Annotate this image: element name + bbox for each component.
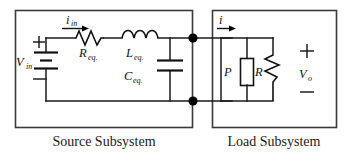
resistor-r-symbol bbox=[265, 55, 279, 101]
iin-label-sub: in bbox=[71, 19, 77, 28]
vo-plus-sign bbox=[300, 44, 314, 58]
vin-plus-sign bbox=[33, 36, 45, 48]
ceq-label-sub: eq. bbox=[133, 76, 143, 85]
schematic-canvas: V in i in R eq. L eq. C eq. i bbox=[0, 0, 344, 157]
node-top-terminal bbox=[188, 33, 197, 42]
power-load-p-symbol bbox=[241, 59, 254, 86]
vin-label-sub: in bbox=[26, 62, 32, 71]
inductor-leq-symbol bbox=[122, 31, 158, 39]
caption-load-subsystem: Load Subsystem bbox=[228, 134, 321, 149]
vo-label-main: V bbox=[299, 67, 308, 81]
i-label-main: i bbox=[219, 13, 223, 27]
circuit-diagram: V in i in R eq. L eq. C eq. i bbox=[0, 0, 344, 157]
leq-label-main: L bbox=[125, 46, 133, 60]
vin-label-main: V bbox=[16, 55, 25, 69]
node-bottom-terminal bbox=[188, 96, 197, 105]
leq-label-sub: eq. bbox=[134, 53, 144, 62]
req-label-sub: eq. bbox=[88, 53, 98, 62]
req-label-main: R bbox=[78, 46, 87, 60]
vo-label-sub: o bbox=[308, 74, 312, 83]
p-label-main: P bbox=[223, 65, 232, 79]
resistor-req-symbol bbox=[76, 31, 104, 45]
ceq-label-main: C bbox=[124, 69, 133, 83]
caption-source-subsystem: Source Subsystem bbox=[52, 134, 155, 149]
r-label-main: R bbox=[254, 65, 263, 79]
iin-label-main: i bbox=[66, 13, 70, 27]
